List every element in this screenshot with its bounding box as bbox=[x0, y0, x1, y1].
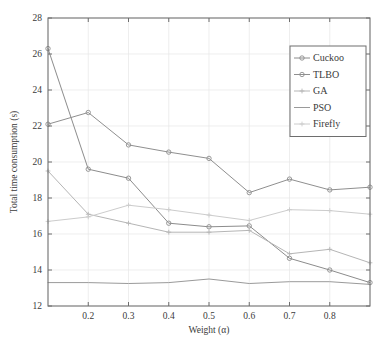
legend-label: Firefly bbox=[313, 118, 340, 129]
x-tick-label: 0.5 bbox=[203, 311, 215, 321]
y-tick-label: 16 bbox=[33, 229, 43, 239]
y-tick-label: 20 bbox=[33, 157, 43, 167]
y-tick-label: 28 bbox=[33, 13, 43, 23]
x-tick-label: 0.2 bbox=[82, 311, 94, 321]
y-tick-label: 22 bbox=[33, 121, 43, 131]
y-tick-label: 14 bbox=[33, 265, 43, 275]
x-tick-label: 0.6 bbox=[243, 311, 255, 321]
chart-legend[interactable]: CuckooTLBOGAPSOFirefly bbox=[290, 46, 366, 137]
line-chart: 1214161820222426280.20.30.40.50.60.70.8 … bbox=[0, 0, 392, 351]
y-tick-label: 12 bbox=[33, 301, 43, 311]
x-tick-label: 0.3 bbox=[123, 311, 135, 321]
figure-container: 1214161820222426280.20.30.40.50.60.70.8 … bbox=[0, 0, 392, 351]
x-tick-label: 0.8 bbox=[324, 311, 336, 321]
y-axis-title: Total time consumption (s) bbox=[9, 111, 20, 214]
y-tick-label: 24 bbox=[33, 85, 43, 95]
y-tick-label: 18 bbox=[33, 193, 43, 203]
legend-label: PSO bbox=[313, 102, 331, 113]
y-tick-label: 26 bbox=[33, 49, 43, 59]
x-axis-title: Weight (α) bbox=[189, 325, 230, 336]
legend-label: TLBO bbox=[313, 69, 339, 80]
legend-label: Cuckoo bbox=[313, 52, 344, 63]
x-tick-label: 0.7 bbox=[284, 311, 296, 321]
legend-label: GA bbox=[313, 85, 328, 96]
x-tick-label: 0.4 bbox=[163, 311, 175, 321]
